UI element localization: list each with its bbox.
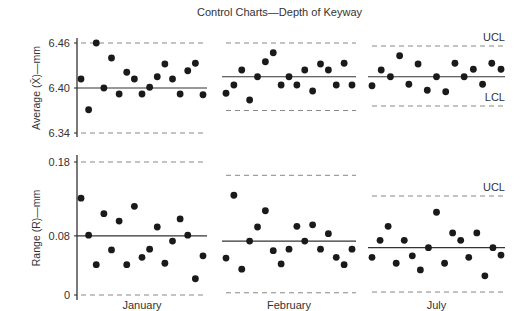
- data-point: [146, 84, 153, 91]
- data-point: [100, 210, 107, 217]
- data-point: [309, 88, 316, 95]
- data-point: [301, 67, 308, 74]
- ucl-label: UCL: [483, 31, 505, 43]
- data-point: [223, 90, 230, 97]
- data-point: [333, 82, 340, 89]
- data-point: [481, 272, 488, 279]
- data-point: [457, 237, 464, 244]
- data-point: [238, 266, 245, 273]
- data-point: [93, 40, 100, 47]
- data-point: [433, 209, 440, 216]
- y-tick-label: 6.34: [49, 127, 70, 139]
- data-point: [246, 238, 253, 245]
- data-point: [108, 55, 115, 62]
- data-point: [286, 73, 293, 80]
- y-axis-label: Average (X̄)—mm: [30, 46, 42, 130]
- data-point: [169, 76, 176, 83]
- data-point: [262, 207, 269, 214]
- data-point: [293, 82, 300, 89]
- data-point: [488, 60, 495, 67]
- data-point: [139, 91, 146, 98]
- data-point: [161, 260, 168, 267]
- data-point: [387, 73, 394, 80]
- data-point: [177, 91, 184, 98]
- data-point: [385, 223, 392, 230]
- data-point: [169, 238, 176, 245]
- data-point: [301, 238, 308, 245]
- data-point: [278, 261, 285, 268]
- data-point: [223, 255, 230, 262]
- data-point: [442, 88, 449, 95]
- month-label-january: January: [122, 299, 162, 311]
- data-point: [417, 266, 424, 273]
- data-point: [177, 215, 184, 222]
- data-point: [116, 91, 123, 98]
- data-point: [116, 218, 123, 225]
- data-point: [349, 82, 356, 89]
- y-tick-label: 6.40: [49, 82, 70, 94]
- data-point: [293, 223, 300, 230]
- data-point: [341, 261, 348, 268]
- lcl-label: LCL: [485, 91, 505, 103]
- data-point: [154, 224, 161, 231]
- data-point: [377, 237, 384, 244]
- data-point: [498, 252, 505, 259]
- data-point: [449, 230, 456, 237]
- data-point: [415, 61, 422, 68]
- data-point: [433, 73, 440, 80]
- data-point: [254, 73, 261, 80]
- data-point: [100, 85, 107, 92]
- data-point: [393, 260, 400, 267]
- data-point: [278, 82, 285, 89]
- data-point: [461, 73, 468, 80]
- data-point: [325, 230, 332, 237]
- data-point: [78, 76, 85, 83]
- data-point: [349, 246, 356, 253]
- data-point: [270, 247, 277, 254]
- data-point: [230, 82, 237, 89]
- data-point: [409, 252, 416, 259]
- data-point: [424, 87, 431, 94]
- data-point: [405, 81, 412, 88]
- data-point: [441, 260, 448, 267]
- data-point: [123, 69, 130, 76]
- data-point: [286, 246, 293, 253]
- data-point: [425, 244, 432, 251]
- y-tick-label: 6.46: [49, 37, 70, 49]
- data-point: [131, 203, 138, 210]
- data-point: [93, 261, 100, 268]
- data-point: [479, 81, 486, 88]
- y-tick-label: 0: [64, 289, 70, 301]
- data-point: [192, 275, 199, 282]
- y-tick-label: 0.18: [49, 156, 70, 168]
- ucl-label: UCL: [483, 181, 505, 193]
- data-point: [341, 60, 348, 67]
- data-point: [246, 97, 253, 104]
- data-point: [452, 60, 459, 67]
- data-point: [108, 247, 115, 254]
- data-point: [490, 244, 497, 251]
- y-tick-label: 0.08: [49, 230, 70, 242]
- data-point: [465, 254, 472, 261]
- data-point: [396, 52, 403, 59]
- data-point: [470, 66, 477, 73]
- data-point: [131, 76, 138, 83]
- data-point: [200, 91, 207, 98]
- data-point: [184, 67, 191, 74]
- data-point: [192, 60, 199, 67]
- data-point: [85, 106, 92, 113]
- data-point: [184, 232, 191, 239]
- data-point: [85, 232, 92, 239]
- control-charts: 6.346.406.46Average (X̄)—mmUCLLCL00.080.…: [0, 0, 529, 311]
- data-point: [262, 58, 269, 65]
- data-point: [369, 82, 376, 89]
- data-point: [200, 252, 207, 259]
- data-point: [238, 67, 245, 74]
- data-point: [123, 261, 130, 268]
- data-point: [369, 254, 376, 261]
- y-axis-label: Range (R)—mm: [30, 190, 42, 267]
- data-point: [161, 61, 168, 68]
- data-point: [78, 195, 85, 202]
- month-label-july: July: [427, 299, 447, 311]
- data-point: [139, 254, 146, 261]
